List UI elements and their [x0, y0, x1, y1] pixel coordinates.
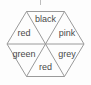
- sector-label-pink: pink: [59, 29, 76, 38]
- sector-label-grey: grey: [58, 50, 76, 59]
- sector-label-green: green: [12, 50, 35, 59]
- sector-label-red-upper-left: red: [17, 29, 30, 38]
- screenshot-root: black pink grey red green red: [0, 0, 91, 85]
- sector-label-red-bottom: red: [39, 63, 52, 72]
- sector-label-black: black: [35, 15, 56, 24]
- hexagon-spinner-figure: black pink grey red green red: [0, 0, 91, 85]
